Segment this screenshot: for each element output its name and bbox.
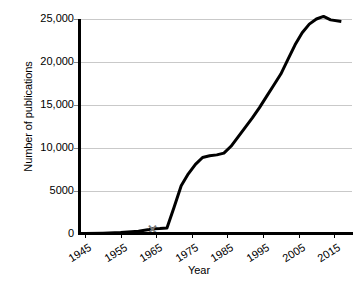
x-tick-mark xyxy=(156,235,157,238)
x-tick-labels: 19451955196519751985199520052015 xyxy=(0,0,362,283)
y-tick-mark xyxy=(74,19,78,20)
x-tick-mark xyxy=(227,235,228,238)
x-tick-mark xyxy=(192,235,193,238)
x-tick-mark xyxy=(121,235,122,238)
x-tick-mark xyxy=(334,235,335,238)
x-axis-title: Year xyxy=(0,264,362,276)
y-tick-mark xyxy=(74,191,78,192)
y-tick-mark xyxy=(74,62,78,63)
publications-line-chart: ✕ 0500010,00015,00020,00025,000 19451955… xyxy=(0,0,362,283)
y-tick-mark xyxy=(74,148,78,149)
y-tick-mark xyxy=(74,105,78,106)
y-axis-title: Number of publications xyxy=(19,0,37,233)
x-tick-mark xyxy=(85,235,86,238)
x-tick-mark xyxy=(299,235,300,238)
x-tick-mark xyxy=(263,235,264,238)
